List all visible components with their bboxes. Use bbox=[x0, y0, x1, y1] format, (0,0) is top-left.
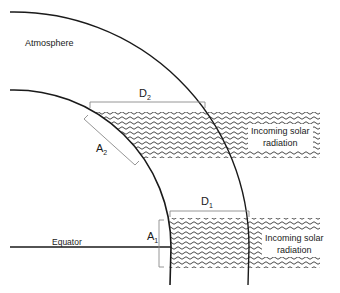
d2-bracket bbox=[90, 102, 205, 108]
a1-label: A1 bbox=[147, 231, 158, 244]
upper-beam-label: Incoming solar radiation bbox=[248, 124, 313, 150]
a2-label: A2 bbox=[96, 143, 107, 156]
a1-bracket bbox=[159, 220, 164, 267]
solar-radiation-diagram: Atmosphere Equator D2 A2 D1 A1 Incoming … bbox=[0, 0, 340, 293]
lower-beam-label: Incoming solar radiation bbox=[262, 231, 327, 257]
equator-label: Equator bbox=[52, 238, 82, 247]
d1-label: D1 bbox=[201, 196, 213, 209]
atmosphere-label: Atmosphere bbox=[25, 39, 74, 48]
d2-label: D2 bbox=[139, 88, 151, 101]
d1-bracket bbox=[170, 211, 249, 217]
